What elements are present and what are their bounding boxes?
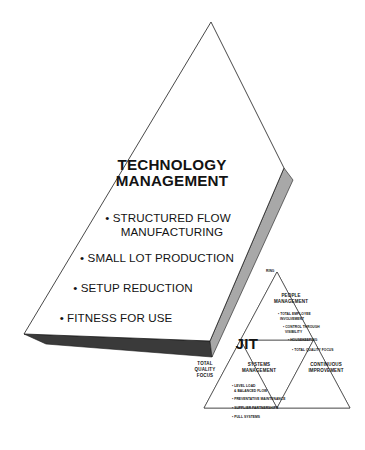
systems-management-heading-line2: MANAGEMENT bbox=[242, 368, 276, 373]
pyramid-bullet-1-line-2: MANUFACTURING bbox=[121, 225, 223, 238]
diagram-canvas: PEOPLE MANAGEMENT • TOTAL EMPLOYEE INVOL… bbox=[0, 0, 365, 450]
pyramid-title-line-2: MANAGEMENT bbox=[116, 172, 229, 189]
people-bullet-4-line1: • TOTAL QUALITY FOCUS bbox=[292, 348, 334, 352]
people-bullet-3-line1: • HOUSEKEEPING bbox=[288, 338, 318, 342]
continuous-improvement-line1: CONTINUOUS bbox=[310, 362, 342, 367]
systems-management-heading-line1: SYSTEMS bbox=[248, 362, 271, 367]
pyramid-title-line-1: TECHNOLOGY bbox=[117, 156, 226, 173]
systems-bullet-2-line1: • PREVENTATIVE MAINTENANCE bbox=[232, 397, 286, 401]
continuous-improvement-line2: IMPROVEMENT bbox=[308, 368, 343, 373]
technology-management-pyramid-group: TECHNOLOGY MANAGEMENT • STRUCTURED FLOW … bbox=[24, 22, 293, 357]
pyramid-bullet-4-line-1: • FITNESS FOR USE bbox=[60, 311, 173, 324]
systems-bullet-1-line1: • LEVEL LOAD bbox=[232, 384, 256, 388]
total-quality-focus-line3: FOCUS bbox=[197, 373, 214, 378]
pyramid-bullet-3-line-1: • SETUP REDUCTION bbox=[73, 281, 193, 294]
systems-bullet-4-line1: • PULL SYSTEMS bbox=[232, 415, 261, 419]
people-bullet-1-line2: INVOLVEMENT bbox=[280, 317, 304, 321]
people-bullet-2-line1: • CONTROL THROUGH bbox=[283, 325, 320, 329]
people-bullet-1-line1: • TOTAL EMPLOYEE bbox=[278, 312, 311, 316]
systems-bullet-1-line2: & BALANCED FLOW bbox=[234, 389, 268, 393]
systems-bullet-3-line1: • SUPPLIER PARTNERSHIPS bbox=[232, 406, 279, 410]
people-management-heading-line2: MANAGEMENT bbox=[274, 299, 308, 304]
pyramid-bullet-1-line-1: • STRUCTURED FLOW bbox=[105, 211, 231, 224]
people-bullet-2-line2: VISIBILITY bbox=[285, 330, 303, 334]
pyramid-bullet-2-line-1: • SMALL LOT PRODUCTION bbox=[80, 251, 234, 264]
people-management-heading-line1: PEOPLE bbox=[281, 293, 300, 298]
total-quality-focus-line2: QUALITY bbox=[195, 367, 216, 372]
diagram-root: PEOPLE MANAGEMENT • TOTAL EMPLOYEE INVOL… bbox=[0, 0, 365, 450]
total-quality-focus-line1: TOTAL bbox=[197, 361, 212, 366]
occluded-engineering-label: RING bbox=[266, 269, 275, 273]
jit-label: JIT bbox=[236, 335, 259, 352]
jit-top-triangle bbox=[241, 272, 314, 340]
